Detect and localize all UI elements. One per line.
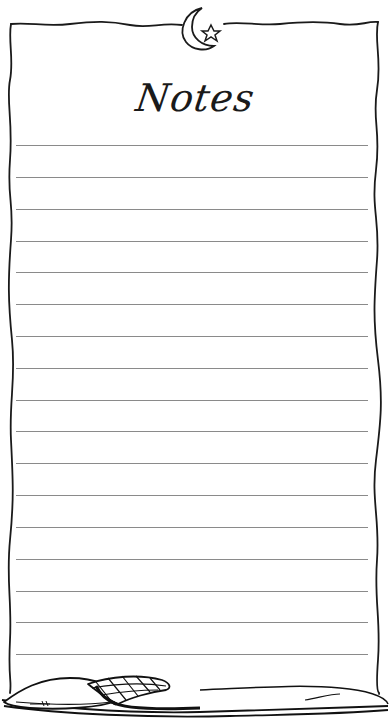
notes-page: Notes — [0, 0, 391, 724]
notes-writing-area[interactable] — [16, 130, 368, 660]
